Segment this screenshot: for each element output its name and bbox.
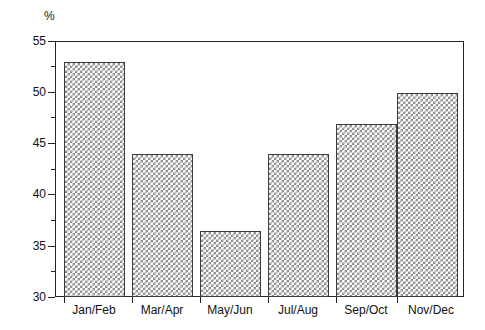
y-tick-35 (48, 246, 55, 247)
y-axis-label-30: 30 (20, 291, 46, 303)
y-axis-label-55: 55 (20, 35, 46, 47)
bar-jul-aug (268, 154, 329, 297)
y-axis-label-40: 40 (20, 188, 46, 200)
y-axis-label-45: 45 (20, 137, 46, 149)
y-axis-labels: 55 50 45 40 35 30 (14, 0, 46, 330)
bar-mar-apr (132, 154, 193, 297)
y-axis-label-35: 35 (20, 240, 46, 252)
y-tick-40 (48, 194, 55, 195)
y-tick-45 (48, 143, 55, 144)
bar-jan-feb (64, 62, 125, 297)
bar-nov-dec (397, 93, 458, 297)
y-tick-50 (48, 92, 55, 93)
y-tick-30 (48, 297, 55, 298)
y-axis-label-50: 50 (20, 86, 46, 98)
bars-layer (56, 42, 463, 297)
x-axis-label-nov-dec: Nov/Dec (389, 303, 473, 317)
bar-sep-oct (336, 124, 397, 297)
bar-chart: % 55 50 45 40 35 30 J (0, 0, 485, 330)
bar-may-jun (200, 231, 261, 297)
y-tick-55 (48, 41, 55, 42)
